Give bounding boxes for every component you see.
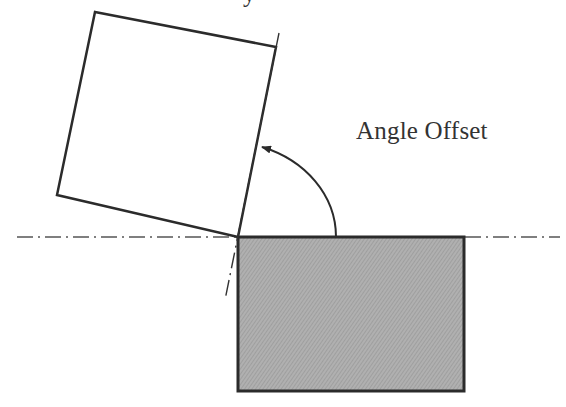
base-block <box>238 237 464 391</box>
cutoff-title-fragment: y <box>243 0 256 8</box>
diagram-graphics <box>0 0 566 407</box>
angle-offset-label: Angle Offset <box>356 117 488 145</box>
angle-arc-arrow <box>262 147 336 237</box>
rotated-block <box>57 12 276 237</box>
angle-offset-diagram: y Angle Offset <box>0 0 566 407</box>
